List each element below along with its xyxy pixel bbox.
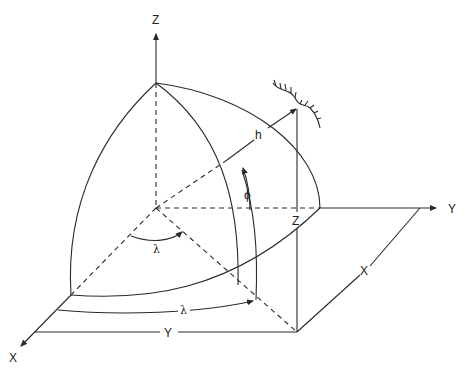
meridian-left — [70, 83, 156, 295]
lambda-center-label: λ — [153, 243, 160, 256]
x-distance-label: X — [360, 264, 368, 278]
x-distance-line-lower — [297, 275, 360, 332]
lambda-equator-label: λ — [180, 304, 187, 317]
x-axis-hidden — [71, 208, 156, 295]
equator — [71, 208, 320, 296]
y-axis-label: Y — [448, 202, 456, 216]
z-height-label: Z — [292, 214, 299, 228]
z-axis-label: Z — [152, 13, 159, 27]
y-distance-label: Y — [164, 326, 172, 340]
lambda-arc-equator — [58, 301, 253, 313]
phi-label: ϕ — [244, 188, 251, 202]
meridian-right — [156, 83, 320, 208]
ground-projection-dashed — [156, 208, 297, 332]
x-axis-label: X — [9, 351, 17, 365]
height-line-upper — [268, 109, 296, 128]
geodetic-diagram: Z Y X λ λ ϕ h Z Y X — [0, 0, 467, 370]
x-distance-line-upper — [370, 208, 420, 266]
lambda-arc-center — [131, 232, 182, 241]
x-axis — [21, 295, 71, 346]
normal-line-dashed — [156, 160, 227, 208]
height-line — [227, 140, 254, 160]
meridian-middle — [156, 83, 238, 285]
height-label: h — [255, 128, 262, 142]
